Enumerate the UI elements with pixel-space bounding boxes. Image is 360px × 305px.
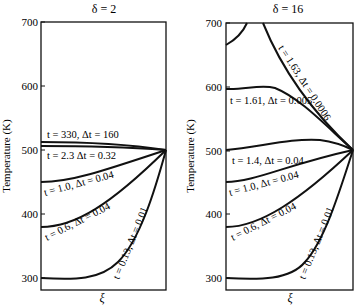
y-tick-label: 300 xyxy=(206,272,223,284)
curve-label: t = 0.6, Δt = 0.04 xyxy=(229,200,299,243)
y-tick-label: 400 xyxy=(206,208,223,220)
y-tick-label: 600 xyxy=(206,81,223,93)
curve-label: t = 330, Δt = 160 xyxy=(47,129,119,140)
y-axis-label: Temperature (K) xyxy=(184,119,197,193)
curve-label: t = 1.0, Δt = 0.04 xyxy=(228,169,301,198)
y-tick-label: 700 xyxy=(22,16,39,28)
curve-label: t = 0.6, Δt = 0.04 xyxy=(43,200,113,243)
y-axis-label: Temperature (K) xyxy=(0,119,13,193)
curve-label: t = 1.4, Δt = 0.04 xyxy=(232,155,304,166)
x-axis-label: ξ xyxy=(287,291,293,305)
curve-label: t = 0.13, Δt = 0.01 xyxy=(297,205,336,280)
y-tick-label: 700 xyxy=(206,17,223,29)
curve-t1-4 xyxy=(226,140,353,150)
curve-label: t = 1.0, Δt = 0.04 xyxy=(43,169,116,198)
y-tick-label: 300 xyxy=(22,272,39,284)
y-tick-label: 400 xyxy=(22,208,39,220)
y-tick-label: 500 xyxy=(22,144,39,156)
panel-title: δ = 2 xyxy=(92,2,116,16)
curve-label: t = 2.3 Δt = 0.32 xyxy=(47,150,116,161)
curve-label: t = 1.61, Δt = 0.005 xyxy=(230,95,312,106)
y-tick-label: 500 xyxy=(206,145,223,157)
figure: δ = 2 700 600 500 400 300 Temperature (K… xyxy=(0,0,360,305)
curve-label: t = 1.63, Δt = 0.0006 xyxy=(276,43,333,122)
curve-label: t = 0.13, Δt = 0.01 xyxy=(111,205,150,280)
curve-arc xyxy=(226,23,247,45)
panel-delta-16: δ = 16 700 600 500 400 300 Temperature (… xyxy=(184,2,353,305)
panel-delta-2: δ = 2 700 600 500 400 300 Temperature (K… xyxy=(0,2,166,305)
panel-title: δ = 16 xyxy=(273,2,303,16)
x-axis-label: ξ xyxy=(99,291,105,305)
y-tick-label: 600 xyxy=(22,80,39,92)
